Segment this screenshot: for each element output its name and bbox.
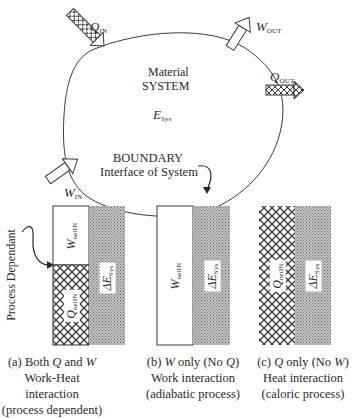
panel-c-delta-e-label: ΔESys: [306, 260, 322, 291]
panel-c-q-netin-label: QnetIN: [270, 260, 286, 292]
panel-a-caption-line3: (process dependent): [0, 402, 107, 418]
boundary-pointer-arrow: [198, 166, 211, 190]
panel-b-caption-line2: Work interaction: [138, 370, 248, 386]
panel-c-caption: (c) Q only (No W) Heat interaction (calo…: [248, 354, 358, 402]
panel-b-delta-e-label: ΔESys: [205, 260, 221, 291]
system-title-line1: Material: [148, 66, 189, 78]
panel-b-caption: (b) W only (No Q) Work interaction (adia…: [138, 354, 248, 402]
system-boundary: [63, 33, 283, 217]
panel-c-caption-line2: Heat interaction: [248, 370, 358, 386]
panel-b-w-netin-label: WnetIN: [168, 260, 184, 293]
process-dependant-arrow: [22, 226, 50, 265]
w-in-label: WIN: [64, 186, 83, 201]
w-out-label: WOUT: [256, 20, 282, 35]
panel-b-caption-line1: (b) W only (No Q): [138, 354, 248, 370]
panel-b-caption-line3: (adiabatic process): [138, 386, 248, 402]
panel-c-caption-line3: (caloric process): [248, 386, 358, 402]
panel-a-q-netin-label: QnetIN: [64, 290, 80, 322]
panel-a-caption-line2: Work-Heat interaction: [0, 370, 107, 402]
w-in-arrow: [43, 152, 83, 187]
panel-a-caption: (a) Both Q and W Work-Heat interaction (…: [0, 354, 107, 418]
q-in-label: QIN: [90, 20, 107, 35]
boundary-label: BOUNDARY: [113, 152, 183, 165]
system-title-line2: SYSTEM: [142, 80, 189, 92]
panel-a-w-netin-label: WnetIN: [64, 220, 80, 253]
panel-a-delta-e-label: ΔESys: [100, 262, 116, 293]
w-out-arrow: [222, 13, 256, 53]
system-energy-label: ESys: [153, 108, 172, 123]
panel-a-caption-line1: (a) Both Q and W: [0, 354, 107, 370]
panel-c-caption-line1: (c) Q only (No W): [248, 354, 358, 370]
q-out-label: QOUT: [270, 70, 294, 85]
process-dependant-label: Process Dependant: [4, 226, 18, 324]
boundary-sublabel: Interface of System: [100, 166, 198, 179]
